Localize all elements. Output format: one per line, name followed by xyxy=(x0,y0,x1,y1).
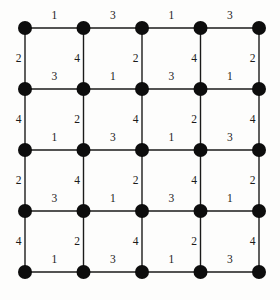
weighted-grid-graph-figure: 1313313113133131131324242424242424242424 xyxy=(0,0,280,300)
edge-weight-vertical-r0-c1: 4 xyxy=(74,53,80,65)
graph-node-r2-c3 xyxy=(194,143,208,157)
edge-weight-vertical-r0-c2: 2 xyxy=(133,53,139,65)
edge-weight-vertical-r3-c1: 2 xyxy=(74,236,80,248)
graph-node-r4-c1 xyxy=(77,265,91,279)
edge-weight-vertical-r2-c0: 2 xyxy=(16,175,22,187)
edge-weight-horizontal-r1-c3: 1 xyxy=(227,71,233,83)
graph-node-r0-c3 xyxy=(194,21,208,35)
graph-node-r1-c3 xyxy=(194,82,208,96)
graph-node-r3-c2 xyxy=(135,204,149,218)
edge-weight-vertical-r0-c4: 2 xyxy=(250,53,256,65)
graph-node-r0-c0 xyxy=(18,21,32,35)
graph-node-r4-c3 xyxy=(194,265,208,279)
graph-node-r1-c2 xyxy=(135,82,149,96)
edge-weight-vertical-r1-c1: 2 xyxy=(74,114,80,126)
edge-weight-horizontal-r1-c2: 3 xyxy=(168,71,174,83)
edge-weight-horizontal-r2-c2: 1 xyxy=(168,132,174,144)
graph-node-r2-c0 xyxy=(18,143,32,157)
graph-node-r0-c1 xyxy=(77,21,91,35)
graph-node-r2-c2 xyxy=(135,143,149,157)
edge-weight-horizontal-r4-c2: 1 xyxy=(168,254,174,266)
edge-weight-vertical-r2-c1: 4 xyxy=(74,175,80,187)
graph-node-r3-c0 xyxy=(18,204,32,218)
edge-weight-vertical-r2-c4: 2 xyxy=(250,175,256,187)
edge-weight-horizontal-r2-c3: 3 xyxy=(227,132,233,144)
edge-weight-vertical-r1-c4: 4 xyxy=(250,114,256,126)
edge-weight-horizontal-r2-c0: 1 xyxy=(51,132,57,144)
edge-weight-horizontal-r2-c1: 3 xyxy=(110,132,116,144)
graph-node-r1-c1 xyxy=(77,82,91,96)
edge-weight-horizontal-r3-c3: 1 xyxy=(227,193,233,205)
edge-weight-horizontal-r0-c0: 1 xyxy=(51,10,57,22)
edge-weight-horizontal-r3-c1: 1 xyxy=(110,193,116,205)
edge-weight-vertical-r3-c4: 4 xyxy=(250,236,256,248)
edge-weight-vertical-r2-c3: 4 xyxy=(191,175,197,187)
graph-node-r2-c1 xyxy=(77,143,91,157)
edge-weight-vertical-r3-c2: 4 xyxy=(133,236,139,248)
edge-weight-horizontal-r3-c0: 3 xyxy=(51,193,57,205)
edge-weight-vertical-r1-c0: 4 xyxy=(16,114,22,126)
graph-node-r0-c4 xyxy=(252,21,266,35)
edge-weight-horizontal-r1-c1: 1 xyxy=(110,71,116,83)
edge-weight-horizontal-r0-c3: 3 xyxy=(227,10,233,22)
edge-weight-vertical-r1-c2: 4 xyxy=(133,114,139,126)
edge-weight-horizontal-r0-c2: 1 xyxy=(168,10,174,22)
graph-node-r2-c4 xyxy=(252,143,266,157)
graph-node-r4-c4 xyxy=(252,265,266,279)
edge-weight-horizontal-r1-c0: 3 xyxy=(51,71,57,83)
graph-node-r3-c1 xyxy=(77,204,91,218)
edge-weight-vertical-r2-c2: 2 xyxy=(133,175,139,187)
edge-weight-vertical-r0-c3: 4 xyxy=(191,53,197,65)
graph-node-r3-c3 xyxy=(194,204,208,218)
edge-weight-vertical-r3-c0: 4 xyxy=(16,236,22,248)
graph-canvas xyxy=(0,0,280,300)
graph-node-r1-c4 xyxy=(252,82,266,96)
edge-weight-vertical-r3-c3: 2 xyxy=(191,236,197,248)
edge-weight-horizontal-r4-c3: 3 xyxy=(227,254,233,266)
graph-node-r1-c0 xyxy=(18,82,32,96)
graph-node-r4-c0 xyxy=(18,265,32,279)
edge-weight-horizontal-r4-c1: 3 xyxy=(110,254,116,266)
edge-weight-vertical-r1-c3: 2 xyxy=(191,114,197,126)
graph-node-r0-c2 xyxy=(135,21,149,35)
edge-weight-horizontal-r4-c0: 1 xyxy=(51,254,57,266)
edge-weight-horizontal-r3-c2: 3 xyxy=(168,193,174,205)
edge-weight-horizontal-r0-c1: 3 xyxy=(110,10,116,22)
graph-node-r4-c2 xyxy=(135,265,149,279)
graph-node-r3-c4 xyxy=(252,204,266,218)
edge-weight-vertical-r0-c0: 2 xyxy=(16,53,22,65)
